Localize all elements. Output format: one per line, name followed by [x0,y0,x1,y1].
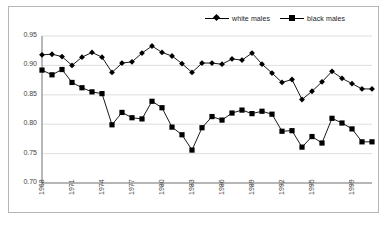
data-point-square [299,145,304,150]
data-point-diamond [219,61,225,67]
x-axis-tick-label: 1968 [38,179,45,195]
x-axis-tick-label: 1995 [308,179,315,195]
data-point-square [69,80,74,85]
data-point-square [79,85,84,90]
plot-area: 0.950.900.850.800.750.701968197119741977… [0,0,389,226]
data-point-square [339,120,344,125]
y-axis-tick-label: 0.85 [9,90,37,97]
y-axis-tick-label: 0.90 [9,60,37,67]
x-axis-tick-label: 1971 [68,179,75,195]
data-point-square [99,91,104,96]
data-point-square [309,134,314,139]
y-axis-tick-label: 0.75 [9,149,37,156]
x-axis-tick-label: 1980 [158,179,165,195]
x-axis-tick-label: 1983 [188,179,195,195]
data-point-square [159,105,164,110]
data-point-square [49,72,54,77]
data-point-square [289,128,294,133]
data-point-diamond [89,50,95,56]
data-point-square [189,147,194,152]
data-point-diamond [289,77,295,83]
data-point-diamond [239,57,245,63]
y-axis-tick-label: 0.95 [9,31,37,38]
data-point-square [209,114,214,119]
data-point-diamond [99,54,105,60]
data-point-square [329,116,334,121]
data-point-diamond [159,50,165,56]
data-point-diamond [359,86,365,92]
data-point-square [269,112,274,117]
data-point-diamond [49,51,55,57]
data-point-diamond [369,86,375,92]
data-point-square [229,110,234,115]
data-point-diamond [39,52,45,58]
data-point-square [319,140,324,145]
x-axis-tick-label: 1999 [348,179,355,195]
data-point-square [349,126,354,131]
data-point-square [219,117,224,122]
data-point-square [149,99,154,104]
data-point-diamond [149,43,155,49]
data-point-square [89,89,94,94]
data-point-square [129,115,134,120]
data-point-square [169,125,174,130]
data-point-square [259,109,264,114]
data-point-square [369,139,374,144]
data-point-square [39,68,44,73]
data-point-diamond [349,81,355,87]
data-point-square [249,111,254,116]
data-point-diamond [339,75,345,81]
x-axis-tick-label: 1989 [248,179,255,195]
data-point-diamond [229,56,235,62]
data-point-square [359,139,364,144]
data-point-square [109,122,114,127]
y-axis-tick-label: 0.70 [9,178,37,185]
data-point-square [279,129,284,134]
chart-figure: white males black males 0.950.900.850.80… [0,0,389,226]
data-point-square [119,110,124,115]
x-axis-tick-label: 1992 [278,179,285,195]
data-point-square [179,132,184,137]
x-axis-tick-label: 1986 [218,179,225,195]
y-axis-tick-label: 0.80 [9,119,37,126]
x-axis-tick-label: 1977 [128,179,135,195]
data-point-square [199,125,204,130]
data-point-square [139,116,144,121]
data-point-square [59,67,64,72]
x-axis-tick-label: 1974 [98,179,105,195]
data-point-square [239,107,244,112]
